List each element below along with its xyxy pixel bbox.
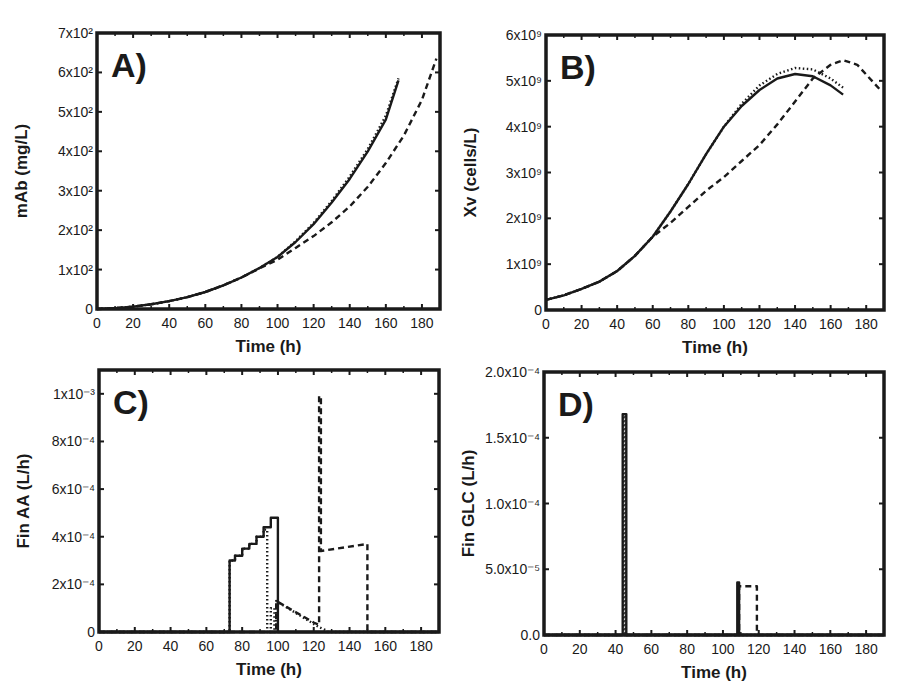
y-tick-label: 1.5x10⁻⁴ xyxy=(485,430,540,446)
x-axis-title: Time (h) xyxy=(682,338,748,357)
y-tick-label: 1x10⁻³ xyxy=(53,386,95,402)
x-tick-label: 180 xyxy=(410,315,434,331)
plot-frame xyxy=(97,33,440,309)
series-line-dashed xyxy=(97,59,436,309)
x-tick-label: 140 xyxy=(783,641,807,657)
series-line-dotted xyxy=(544,414,884,635)
plot-frame xyxy=(546,35,884,310)
x-tick-label: 120 xyxy=(748,316,772,332)
x-tick-label: 100 xyxy=(266,315,290,331)
series-line-dashed xyxy=(544,586,884,635)
y-tick-label: 8x10⁻⁴ xyxy=(52,433,95,449)
data-series xyxy=(546,60,880,300)
panel-label: C) xyxy=(113,383,149,421)
y-tick-label: 0 xyxy=(85,301,93,317)
series-line-dashed xyxy=(546,60,880,300)
x-tick-label: 80 xyxy=(234,315,250,331)
series-line-solid xyxy=(99,518,439,632)
x-tick-label: 40 xyxy=(161,315,177,331)
y-axis-title: Fin GLC (L/h) xyxy=(459,450,478,558)
series-line-solid xyxy=(546,74,843,300)
x-tick-label: 120 xyxy=(302,638,326,654)
y-tick-label: 0 xyxy=(534,302,542,318)
y-axis-title: Xv (cells/L) xyxy=(461,128,480,218)
x-tick-label: 120 xyxy=(747,641,771,657)
x-tick-label: 100 xyxy=(712,316,736,332)
data-series xyxy=(99,396,439,632)
y-tick-label: 0 xyxy=(87,624,95,640)
x-tick-label: 80 xyxy=(234,638,250,654)
x-tick-label: 120 xyxy=(302,315,326,331)
x-tick-label: 0 xyxy=(93,315,101,331)
data-series xyxy=(544,414,884,635)
y-tick-label: 7x10² xyxy=(58,25,93,41)
plot-frame xyxy=(99,370,439,632)
x-tick-label: 60 xyxy=(199,638,215,654)
y-tick-label: 6x10⁻⁴ xyxy=(52,481,95,497)
x-tick-label: 160 xyxy=(819,316,843,332)
y-tick-label: 4x10² xyxy=(58,143,93,159)
x-tick-label: 80 xyxy=(681,316,697,332)
x-tick-label: 100 xyxy=(266,638,290,654)
panel-b-viable-cells-chart: 02040608010012014016018001x10⁹2x10⁹3x10⁹… xyxy=(461,27,884,357)
x-tick-label: 60 xyxy=(644,641,660,657)
y-tick-label: 3x10² xyxy=(58,183,93,199)
y-tick-label: 5.0x10⁻⁵ xyxy=(485,561,540,577)
series-line-dotted xyxy=(546,68,843,300)
y-tick-label: 5x10⁹ xyxy=(506,73,542,89)
x-tick-label: 80 xyxy=(679,641,695,657)
figure-canvas: 02040608010012014016018001x10²2x10²3x10²… xyxy=(0,0,899,697)
y-tick-label: 2x10² xyxy=(58,222,93,238)
x-tick-label: 100 xyxy=(711,641,735,657)
x-axis-title: Time (h) xyxy=(236,337,302,356)
y-tick-label: 5x10² xyxy=(58,104,93,120)
x-tick-label: 40 xyxy=(163,638,179,654)
series-line-dashed xyxy=(99,396,439,632)
y-tick-label: 1.0x10⁻⁴ xyxy=(485,496,540,512)
x-tick-label: 160 xyxy=(374,638,398,654)
x-tick-label: 60 xyxy=(645,316,661,332)
y-axis-title: Fin AA (L/h) xyxy=(14,453,33,548)
x-tick-label: 20 xyxy=(125,315,141,331)
x-tick-label: 60 xyxy=(198,315,214,331)
x-tick-label: 180 xyxy=(854,641,878,657)
x-tick-label: 180 xyxy=(855,316,879,332)
x-tick-label: 160 xyxy=(374,315,398,331)
y-tick-label: 3x10⁹ xyxy=(506,165,542,181)
x-tick-label: 40 xyxy=(609,316,625,332)
data-series xyxy=(97,59,436,309)
y-tick-label: 4x10⁹ xyxy=(506,119,542,135)
panel-label: A) xyxy=(111,46,147,84)
x-tick-label: 20 xyxy=(572,641,588,657)
x-axis-title: Time (h) xyxy=(236,660,302,679)
y-tick-label: 2.0x10⁻⁴ xyxy=(485,364,540,380)
x-tick-label: 20 xyxy=(574,316,590,332)
panel-label: B) xyxy=(560,48,596,86)
y-tick-label: 4x10⁻⁴ xyxy=(52,529,95,545)
panel-a-mab-chart: 02040608010012014016018001x10²2x10²3x10²… xyxy=(12,25,440,356)
y-tick-label: 0.0 xyxy=(521,627,541,643)
x-tick-label: 0 xyxy=(542,316,550,332)
x-tick-label: 140 xyxy=(338,315,362,331)
y-tick-label: 6x10⁹ xyxy=(506,27,542,43)
x-tick-label: 140 xyxy=(338,638,362,654)
x-tick-label: 40 xyxy=(608,641,624,657)
y-tick-label: 2x10⁻⁴ xyxy=(52,576,95,592)
plot-frame xyxy=(544,372,884,635)
x-tick-label: 0 xyxy=(540,641,548,657)
series-line-dotted xyxy=(99,530,439,632)
y-tick-label: 1x10⁹ xyxy=(506,256,542,272)
series-line-solid xyxy=(544,414,884,635)
x-tick-label: 20 xyxy=(127,638,143,654)
y-tick-label: 1x10² xyxy=(58,262,93,278)
y-tick-label: 6x10² xyxy=(58,64,93,80)
x-tick-label: 180 xyxy=(409,638,433,654)
y-axis-ticks: 02x10⁻⁴4x10⁻⁴6x10⁻⁴8x10⁻⁴1x10⁻³ xyxy=(52,386,439,640)
x-tick-label: 160 xyxy=(819,641,843,657)
panel-label: D) xyxy=(558,385,594,423)
y-tick-label: 2x10⁹ xyxy=(506,210,542,226)
panel-c-feed-aa-chart: 02040608010012014016018002x10⁻⁴4x10⁻⁴6x1… xyxy=(14,370,439,679)
panel-d-feed-glc-chart: 0204060801001201401601800.05.0x10⁻⁵1.0x1… xyxy=(459,364,884,682)
y-axis-title: mAb (mg/L) xyxy=(12,124,31,218)
x-tick-label: 0 xyxy=(95,638,103,654)
